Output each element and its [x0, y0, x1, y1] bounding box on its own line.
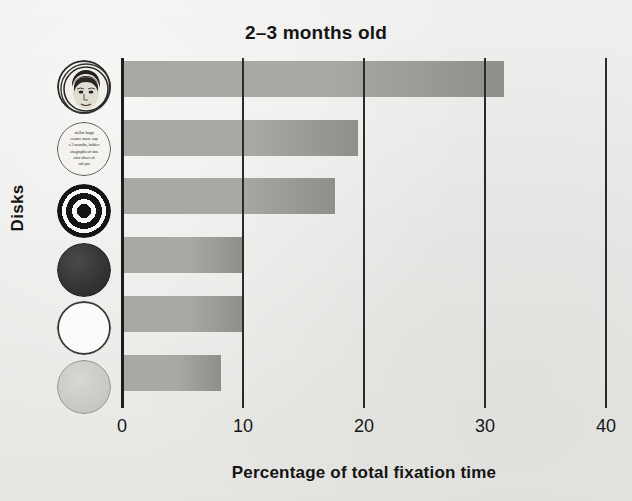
red-disk-icon — [57, 243, 111, 297]
newsprint-text: stellar happ ecome more sop s 3 months, … — [58, 123, 110, 175]
bullseye-disk-icon — [57, 184, 111, 238]
printed-text-disk-icon: stellar happ ecome more sop s 3 months, … — [57, 122, 111, 176]
gridline-10 — [242, 58, 244, 408]
bar-face — [122, 61, 504, 97]
bar-yellow — [122, 355, 221, 391]
bar-printed-text — [122, 120, 358, 156]
bar-white — [122, 296, 243, 332]
x-axis-label: Percentage of total fixation time — [122, 463, 606, 483]
gridline-40 — [605, 58, 607, 408]
gridline-20 — [363, 58, 365, 408]
bar-red — [122, 237, 243, 273]
x-tick-10: 10 — [213, 416, 273, 437]
chart-title: 2–3 months old — [0, 22, 632, 44]
face-disk-icon — [57, 60, 111, 114]
face-drawing — [59, 62, 111, 114]
bar-bull-s-eye — [122, 178, 335, 214]
white-disk-icon — [57, 301, 111, 355]
x-tick-40: 40 — [576, 416, 632, 437]
gridline-30 — [484, 58, 486, 408]
yellow-disk-icon — [57, 360, 111, 414]
y-axis-label: Disks — [8, 158, 28, 258]
x-tick-20: 20 — [334, 416, 394, 437]
gridline-0 — [121, 58, 124, 408]
plot-area — [122, 58, 606, 408]
x-tick-30: 30 — [455, 416, 515, 437]
x-tick-0: 0 — [92, 416, 152, 437]
